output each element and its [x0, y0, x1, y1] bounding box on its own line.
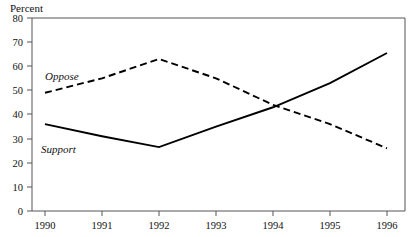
- x-label-1996: 1996: [377, 220, 398, 231]
- y-label-60: 60: [13, 61, 24, 72]
- x-label-1992: 1992: [149, 220, 170, 231]
- y-label-70: 70: [13, 37, 24, 48]
- x-label-1990: 1990: [35, 220, 56, 231]
- x-label-1993: 1993: [206, 220, 227, 231]
- y-axis-tick-labels: 80 70 60 50 40 30 20 10 0: [13, 13, 24, 217]
- x-label-1995: 1995: [320, 220, 341, 231]
- line-chart: Percent 80 70 60 50 40 30 20 10 0: [0, 0, 415, 237]
- y-label-50: 50: [13, 85, 24, 96]
- series-label-support: Support: [41, 143, 77, 155]
- chart-background: [0, 0, 415, 237]
- chart-figure: Percent 80 70 60 50 40 30 20 10 0: [0, 0, 415, 237]
- y-label-80: 80: [13, 13, 24, 24]
- x-label-1994: 1994: [263, 220, 285, 231]
- y-label-0: 0: [18, 206, 23, 217]
- y-label-10: 10: [13, 182, 24, 193]
- y-label-20: 20: [13, 158, 24, 169]
- y-label-30: 30: [13, 134, 24, 145]
- y-label-40: 40: [13, 109, 24, 120]
- x-label-1991: 1991: [92, 220, 113, 231]
- series-label-oppose: Oppose: [45, 70, 79, 82]
